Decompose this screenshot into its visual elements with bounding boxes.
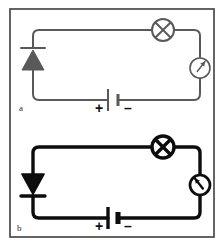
circuit-b-wire-loop xyxy=(33,147,200,218)
circuit-figure: + – a + xyxy=(0,0,224,246)
circuit-a-meter xyxy=(190,58,210,78)
circuit-b-battery xyxy=(108,207,118,229)
circuit-a-lamp xyxy=(152,19,174,41)
battery-plus-sign: + xyxy=(95,218,103,234)
battery-minus-sign: – xyxy=(124,100,132,116)
diode-triangle-icon xyxy=(22,174,44,194)
circuit-diagram-canvas: + – a + xyxy=(0,0,224,246)
figure-border xyxy=(10,9,214,237)
circuit-a-wire-loop xyxy=(33,30,200,100)
battery-minus-sign: – xyxy=(124,218,132,234)
circuit-a: + – a xyxy=(19,19,210,116)
circuit-b-diode xyxy=(21,174,45,196)
circuit-a-diode xyxy=(21,48,45,70)
circuit-label-a: a xyxy=(19,103,23,113)
circuit-b: + – b xyxy=(17,136,210,234)
diode-triangle-icon xyxy=(22,50,44,70)
circuit-label-b: b xyxy=(17,223,22,233)
circuit-a-battery xyxy=(108,89,118,111)
circuit-b-meter xyxy=(190,175,210,195)
circuit-b-lamp xyxy=(152,136,174,158)
battery-plus-sign: + xyxy=(95,100,103,116)
